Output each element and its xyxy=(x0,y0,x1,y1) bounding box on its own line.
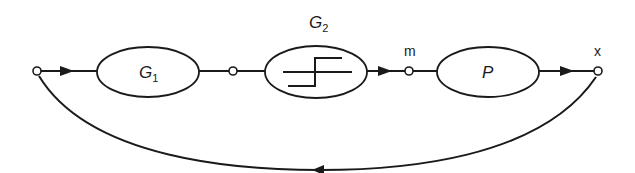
block-p: P xyxy=(437,47,539,97)
p-output-arrow-icon xyxy=(560,66,574,76)
input-node xyxy=(33,67,41,75)
block-g2-label: G2 xyxy=(309,13,328,34)
input-arrow-icon xyxy=(60,66,74,76)
junction-node xyxy=(229,67,237,75)
block-g1: G1 xyxy=(97,47,199,97)
x-node xyxy=(594,67,602,75)
block-g2 xyxy=(265,46,367,98)
block-p-label: P xyxy=(482,63,494,82)
block-diagram: G1 G2 P m x xyxy=(0,0,635,173)
signal-label-x: x xyxy=(594,43,601,59)
g2-output-arrow-icon xyxy=(378,66,392,76)
m-node xyxy=(405,67,413,75)
signal-label-m: m xyxy=(404,43,416,59)
